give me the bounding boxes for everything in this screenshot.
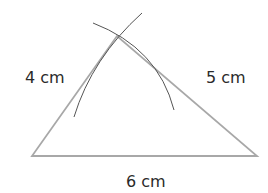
arc-4cm	[74, 13, 142, 117]
side-label-left: 4 cm	[25, 68, 65, 87]
arc-5cm	[93, 23, 174, 110]
triangle	[32, 36, 257, 156]
side-label-base: 6 cm	[126, 172, 166, 191]
side-label-right: 5 cm	[206, 68, 246, 87]
triangle-diagram	[0, 0, 268, 193]
